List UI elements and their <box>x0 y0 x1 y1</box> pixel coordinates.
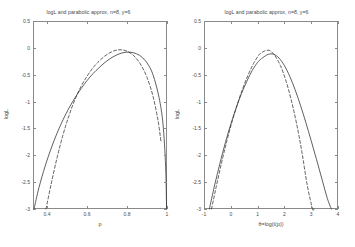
y-tick-label: 0.5 <box>9 18 30 24</box>
y-tick-label: -0.5 <box>180 72 201 78</box>
curve-layer-right <box>178 0 355 247</box>
y-tick-mark <box>164 48 167 49</box>
y-tick-label: 0.5 <box>180 18 201 24</box>
x-tick-mark <box>127 21 128 24</box>
y-tick-label: -1.5 <box>180 125 201 131</box>
y-tick-mark <box>204 102 207 103</box>
x-tick-mark <box>284 21 285 24</box>
y-tick-mark <box>33 48 36 49</box>
curve-parabolic-approx <box>46 50 161 209</box>
x-tick-mark <box>284 206 285 209</box>
y-tick-label: -2.5 <box>9 179 30 185</box>
y-tick-mark <box>33 128 36 129</box>
y-tick-mark <box>164 155 167 156</box>
plot-panel-right: logL and parabolic approx, n=8, y=6 -101… <box>178 0 355 247</box>
x-tick-label: 0.4 <box>44 211 51 217</box>
y-tick-mark <box>33 209 36 210</box>
x-tick-mark <box>127 206 128 209</box>
y-tick-label: -3 <box>180 206 201 212</box>
y-tick-mark <box>33 75 36 76</box>
x-tick-mark <box>87 21 88 24</box>
y-tick-mark <box>33 182 36 183</box>
x-tick-label: 0.6 <box>84 211 91 217</box>
y-tick-mark <box>335 209 338 210</box>
y-tick-mark <box>164 128 167 129</box>
x-tick-label: 3 <box>310 211 313 217</box>
x-tick-mark <box>311 21 312 24</box>
x-tick-label: 1 <box>256 211 259 217</box>
y-tick-mark <box>204 182 207 183</box>
x-tick-mark <box>167 206 168 209</box>
y-tick-mark <box>335 155 338 156</box>
y-axis-label: logL <box>174 109 180 119</box>
y-tick-mark <box>164 75 167 76</box>
x-tick-label: 1 <box>166 211 169 217</box>
matlab-figure: logL and parabolic approx, n=8, y=6 0.40… <box>0 0 355 247</box>
y-tick-mark <box>204 21 207 22</box>
y-tick-label: -2 <box>9 152 30 158</box>
x-tick-mark <box>258 206 259 209</box>
plot-panel-left: logL and parabolic approx, n=8, y=6 0.40… <box>0 0 177 247</box>
y-tick-label: -1.5 <box>9 125 30 131</box>
y-tick-mark <box>335 128 338 129</box>
y-tick-mark <box>335 75 338 76</box>
x-tick-mark <box>47 21 48 24</box>
curve-loglikelihood <box>209 54 331 209</box>
curve-parabolic-approx <box>212 50 314 211</box>
y-tick-mark <box>204 75 207 76</box>
y-tick-label: 0 <box>9 45 30 51</box>
y-tick-mark <box>164 21 167 22</box>
y-tick-mark <box>335 182 338 183</box>
y-tick-label: -2.5 <box>180 179 201 185</box>
y-tick-label: -0.5 <box>9 72 30 78</box>
y-tick-mark <box>204 209 207 210</box>
y-tick-mark <box>204 155 207 156</box>
y-tick-mark <box>204 48 207 49</box>
y-tick-label: -2 <box>180 152 201 158</box>
x-tick-mark <box>311 206 312 209</box>
y-tick-mark <box>33 102 36 103</box>
y-tick-label: -3 <box>9 206 30 212</box>
y-tick-label: -1 <box>9 99 30 105</box>
y-tick-label: 0 <box>180 45 201 51</box>
y-tick-mark <box>164 102 167 103</box>
x-tick-mark <box>167 21 168 24</box>
y-tick-mark <box>335 48 338 49</box>
x-tick-mark <box>338 206 339 209</box>
x-tick-label: 4 <box>337 211 340 217</box>
x-tick-mark <box>87 206 88 209</box>
x-tick-label: 2 <box>283 211 286 217</box>
x-tick-mark <box>47 206 48 209</box>
y-tick-label: -1 <box>180 99 201 105</box>
x-tick-mark <box>258 21 259 24</box>
curve-loglikelihood <box>34 52 167 209</box>
y-tick-mark <box>164 209 167 210</box>
x-tick-mark <box>338 21 339 24</box>
x-tick-label: 0.8 <box>124 211 131 217</box>
y-tick-mark <box>204 128 207 129</box>
y-tick-mark <box>335 21 338 22</box>
y-tick-mark <box>33 21 36 22</box>
y-tick-mark <box>33 155 36 156</box>
x-axis-label: θ=log(t(p)) <box>258 221 283 227</box>
x-tick-mark <box>231 206 232 209</box>
x-axis-label: p <box>99 221 102 227</box>
y-axis-label: logL <box>3 109 9 119</box>
y-tick-mark <box>164 182 167 183</box>
x-tick-label: 0 <box>229 211 232 217</box>
x-tick-mark <box>231 21 232 24</box>
x-tick-label: -1 <box>202 211 206 217</box>
y-tick-mark <box>335 102 338 103</box>
